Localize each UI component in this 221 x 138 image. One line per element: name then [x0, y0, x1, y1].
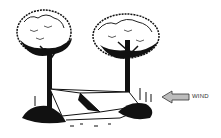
shelter-illustration — [0, 0, 221, 138]
wind-label: WIND — [192, 93, 209, 99]
wind-arrow-icon — [162, 91, 189, 103]
